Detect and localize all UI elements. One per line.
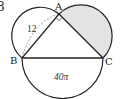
side-ab [22,14,59,58]
point-label-c: C [105,56,113,67]
shaded-semicircle-ac [59,5,112,58]
point-label-b: B [10,55,17,66]
geometry-figure: 8 A B C 12 40π [0,0,120,99]
right-angle-marker-icon [56,17,62,20]
length-label-ab: 12 [27,24,37,34]
point-label-a: A [54,1,63,12]
area-label-bc: 40π [54,72,69,82]
problem-number: 8 [0,0,5,14]
